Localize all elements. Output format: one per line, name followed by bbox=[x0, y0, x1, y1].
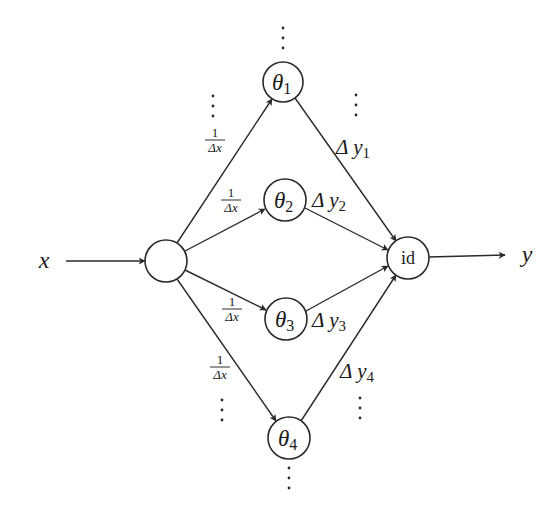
fraction-denominator: Δx bbox=[212, 367, 227, 382]
input-weight-label: 1Δx bbox=[210, 352, 230, 382]
fraction-denominator: Δx bbox=[223, 200, 238, 215]
fraction-numerator: 1 bbox=[229, 294, 236, 309]
vertical-ellipsis bbox=[282, 27, 285, 50]
ellipsis-dot bbox=[282, 27, 285, 30]
node-input bbox=[145, 240, 187, 282]
ellipsis-dot bbox=[288, 467, 291, 470]
ellipsis-dot bbox=[212, 115, 215, 118]
fraction-numerator: 1 bbox=[228, 185, 235, 200]
edge-input-theta4 bbox=[177, 279, 276, 421]
edge-id-y-label bbox=[429, 255, 505, 257]
node-label: id bbox=[401, 248, 415, 268]
ellipsis-dot bbox=[221, 409, 224, 412]
ellipsis-dot bbox=[282, 37, 285, 40]
node-theta1: θ1 bbox=[263, 62, 303, 102]
fraction-denominator: Δx bbox=[207, 140, 222, 155]
vertical-ellipsis bbox=[212, 95, 215, 118]
ellipsis-dot bbox=[355, 104, 358, 107]
ellipsis-dot bbox=[221, 399, 224, 402]
input-weight-label: 1Δx bbox=[221, 185, 241, 215]
node-id: id bbox=[387, 237, 429, 279]
edges bbox=[66, 98, 505, 421]
ellipsis-dot bbox=[221, 419, 224, 422]
ellipsis-dot bbox=[212, 105, 215, 108]
ellipsis-dot bbox=[355, 114, 358, 117]
ellipsis-dot bbox=[288, 487, 291, 490]
ellipsis-dot bbox=[359, 417, 362, 420]
output-weight-label: Δ y3 bbox=[311, 308, 346, 334]
vertical-ellipsis bbox=[221, 399, 224, 422]
fraction-numerator: 1 bbox=[217, 352, 224, 367]
node-circle bbox=[145, 240, 187, 282]
ellipsis-dot bbox=[355, 94, 358, 97]
output-weight-label: Δ y2 bbox=[311, 188, 346, 214]
fraction-denominator: Δx bbox=[224, 309, 239, 324]
vertical-ellipsis bbox=[359, 397, 362, 420]
node-theta2: θ2 bbox=[264, 179, 306, 221]
edge-theta3-id bbox=[306, 266, 388, 311]
network-diagram: θ1θ2θ3θ4id xy1Δx1Δx1Δx1ΔxΔ y1Δ y2Δ y3Δ y… bbox=[0, 0, 557, 516]
fraction-numerator: 1 bbox=[212, 125, 219, 140]
edge-input-theta3 bbox=[185, 270, 266, 310]
node-theta4: θ4 bbox=[268, 417, 310, 459]
output-weight-label: Δ y1 bbox=[335, 135, 370, 161]
diagram-svg: θ1θ2θ3θ4id xy1Δx1Δx1Δx1ΔxΔ y1Δ y2Δ y3Δ y… bbox=[0, 0, 557, 516]
ellipsis-dot bbox=[282, 47, 285, 50]
edge-input-theta1 bbox=[177, 99, 272, 243]
vertical-ellipsis bbox=[288, 467, 291, 490]
input-weight-label: 1Δx bbox=[222, 294, 242, 324]
output-label: y bbox=[520, 241, 533, 267]
input-label: x bbox=[38, 247, 50, 273]
output-weight-label: Δ y4 bbox=[339, 359, 375, 385]
vertical-ellipsis bbox=[355, 94, 358, 117]
labels: xy1Δx1Δx1Δx1ΔxΔ y1Δ y2Δ y3Δ y4 bbox=[38, 125, 533, 385]
ellipsis-dot bbox=[359, 407, 362, 410]
input-weight-label: 1Δx bbox=[205, 125, 225, 155]
edge-theta1-id bbox=[295, 98, 396, 241]
ellipsis-dot bbox=[212, 95, 215, 98]
ellipsis-dot bbox=[359, 397, 362, 400]
edge-input-theta2 bbox=[185, 209, 265, 251]
node-theta3: θ3 bbox=[265, 298, 307, 340]
ellipsis-dot bbox=[288, 477, 291, 480]
edge-theta4-id bbox=[301, 275, 396, 421]
nodes: θ1θ2θ3θ4id bbox=[145, 62, 429, 459]
edge-theta2-id bbox=[305, 208, 388, 250]
